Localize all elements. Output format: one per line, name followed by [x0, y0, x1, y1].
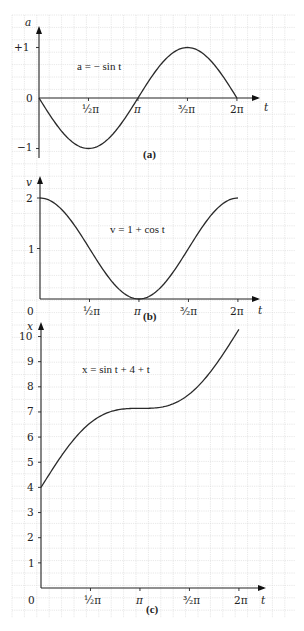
chart-c-ytick-8: 8 — [27, 380, 34, 392]
chart-a-xtick-half-pi: ½π — [82, 103, 99, 115]
chart-a-xtick-pi: π — [133, 103, 142, 115]
chart-a-panel-label: (a) — [143, 148, 156, 161]
chart-b-xtick-three-half-pi: ³⁄₂π — [180, 305, 197, 317]
chart-c-ytick-7: 7 — [27, 405, 34, 417]
chart-c-xtick-0: 0 — [28, 594, 35, 606]
chart-b-ytick-2: 2 — [26, 192, 33, 204]
chart-c-ytick-10: 10 — [19, 330, 32, 342]
chart-c-equation: x = sin t + 4 + t — [82, 363, 150, 375]
chart-b-xtick-pi: π — [133, 305, 142, 317]
chart-a-ytick-plus1: +1 — [14, 41, 29, 53]
chart-b-x-axis-label: t — [258, 304, 263, 316]
chart-c-ytick-4: 4 — [27, 481, 34, 493]
chart-a-ytick-minus1: −1 — [17, 141, 32, 153]
chart-c-ytick-3: 3 — [27, 506, 34, 518]
chart-b-xtick-two-pi: 2π — [230, 305, 244, 317]
chart-c-ytick-5: 5 — [27, 456, 34, 468]
chart-b-equation: v = 1 + cos t — [110, 223, 165, 235]
chart-a-xtick-three-half-pi: ³⁄₂π — [178, 103, 195, 115]
chart-c-curve — [41, 329, 239, 487]
chart-c-xtick-two-pi: 2π — [234, 594, 248, 606]
chart-b-xtick-0: 0 — [27, 305, 34, 317]
chart-b-y-axis-label: v — [26, 176, 32, 188]
chart-b-panel-label: (b) — [143, 310, 157, 323]
chart-c-panel-label: (c) — [146, 603, 159, 616]
chart-c-ytick-1: 1 — [28, 557, 35, 569]
chart-a-x-axis-label: t — [264, 101, 269, 113]
chart-b-ytick-1: 1 — [28, 243, 35, 255]
chart-b-xtick-half-pi: ½π — [83, 305, 100, 317]
chart-a-xtick-two-pi: 2π — [230, 103, 244, 115]
chart-c-xtick-pi: π — [135, 594, 144, 606]
chart-figure: a t +1 0 −1 ½π π ³⁄₂π 2π a = − sin t (a)… — [0, 0, 304, 631]
chart-b-axes — [37, 176, 260, 302]
chart-a-axes — [36, 26, 260, 158]
chart-c-ytick-2: 2 — [27, 531, 34, 543]
chart-c-xtick-half-pi: ½π — [84, 594, 101, 606]
chart-a-y-axis-label: a — [25, 16, 31, 28]
chart-c-ytick-6: 6 — [27, 431, 34, 443]
chart-a-equation: a = − sin t — [77, 60, 121, 72]
chart-a-ytick-0: 0 — [26, 92, 33, 104]
chart-c-x-axis-label: t — [261, 594, 266, 606]
chart-c-displacement: x t 10 9 8 7 6 5 4 3 2 1 0 ½π π ³⁄₂π 2π … — [19, 320, 266, 616]
chart-c-xtick-three-half-pi: ³⁄₂π — [183, 594, 200, 606]
chart-c-ytick-9: 9 — [27, 355, 34, 367]
